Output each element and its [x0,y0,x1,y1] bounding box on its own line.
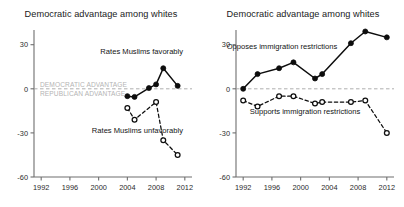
x-tick-label: 1996 [264,183,280,192]
data-point-1-8 [363,29,368,34]
x-tick-label: 1992 [235,183,251,192]
y-tick-label: -30 [17,129,28,138]
data-point-1-6 [175,83,180,88]
x-tick-label: 2012 [379,183,395,192]
series-annotation-1: Rates Muslims favorably [100,47,183,56]
republican-advantage-label: REPUBLICAN ADVANTAGE [40,90,126,97]
democratic-advantage-label: DEMOCRATIC ADVANTAGE [40,81,127,88]
data-point-1-4 [154,82,159,87]
series-annotation-2: Supports immigration restrictions [250,107,361,116]
chart-panel-left: Democratic advantage among whites 300-30… [0,0,202,207]
data-point-2-6 [320,100,325,105]
data-point-2-4 [291,94,296,99]
data-point-2-1 [241,98,246,103]
y-tick-label: -60 [219,173,230,182]
x-tick-label: 2000 [292,183,308,192]
x-tick-label: 2008 [350,183,366,192]
x-tick-label: 2004 [119,183,135,192]
data-point-1-3 [277,66,282,71]
data-point-2-8 [363,98,368,103]
data-point-2-5 [313,101,318,106]
data-point-1-2 [255,72,260,77]
x-tick-label: 2000 [90,183,106,192]
data-point-2-9 [384,131,389,136]
data-point-1-5 [313,76,318,81]
y-tick-label: -30 [219,129,230,138]
chart-plot-left: 300-30-60199219962000200420082012DEMOCRA… [0,0,202,207]
data-point-1-9 [384,35,389,40]
y-tick-label: -60 [17,173,28,182]
x-tick-label: 2012 [177,183,193,192]
data-point-2-7 [349,100,354,105]
series-annotation-1: Opposes immigration restrictions [227,42,338,51]
data-point-1-1 [125,94,130,99]
series-annotation-2: Rates Muslims unfavorably [92,126,183,135]
series-line-1 [127,68,177,97]
data-point-1-5 [161,66,166,71]
data-point-2-3 [277,94,282,99]
data-point-1-2 [132,94,137,99]
data-point-2-5 [175,153,180,158]
y-tick-label: 30 [20,40,28,49]
x-tick-label: 1996 [62,183,78,192]
data-point-2-3 [154,100,159,105]
data-point-1-4 [291,60,296,65]
figure-root: Democratic advantage among whites 300-30… [0,0,404,207]
data-point-1-7 [348,41,353,46]
y-tick-label: 0 [226,85,230,94]
data-point-2-1 [125,106,130,111]
data-point-1-1 [241,86,246,91]
x-tick-label: 1992 [33,183,49,192]
chart-panel-right: Democratic advantage among whites 300-30… [202,0,404,207]
data-point-1-3 [146,86,151,91]
data-point-2-4 [161,138,166,143]
x-tick-label: 2008 [148,183,164,192]
data-point-1-6 [320,72,325,77]
chart-plot-right: 300-30-60199219962000200420082012Opposes… [202,0,404,207]
y-tick-label: 0 [24,85,28,94]
x-tick-label: 2004 [321,183,337,192]
data-point-2-2 [132,117,137,122]
